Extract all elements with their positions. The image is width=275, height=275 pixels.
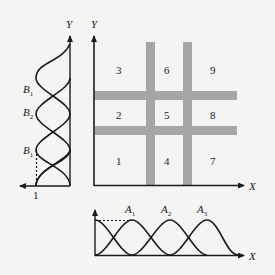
vertical-bar-2 xyxy=(183,42,192,185)
cell-7: 7 xyxy=(210,155,216,167)
label-a2: A2 xyxy=(160,203,172,218)
left-y-label: Y xyxy=(66,18,74,30)
curve-a1 xyxy=(95,220,170,255)
curve-b2 xyxy=(36,78,70,150)
vertical-bar-1 xyxy=(146,42,155,185)
left-amplitude-label: 1 xyxy=(33,189,39,201)
curve-b-top xyxy=(36,44,70,114)
cell-8: 8 xyxy=(210,109,216,121)
cell-2: 2 xyxy=(116,109,122,121)
curve-b1-bottom xyxy=(36,150,70,186)
cell-1: 1 xyxy=(116,155,122,167)
curve-a3 xyxy=(170,220,238,255)
fuzzy-partition-diagram: Y X 3 6 9 2 5 8 1 4 7 Y 1 B1 B2 B1 xyxy=(0,0,275,275)
main-y-label: Y xyxy=(91,18,99,30)
label-b2: B2 xyxy=(23,106,34,121)
bottom-x-label: X xyxy=(248,250,257,262)
cell-9: 9 xyxy=(210,64,216,76)
cell-4: 4 xyxy=(164,155,170,167)
curve-a2 xyxy=(132,220,207,255)
label-a3: A3 xyxy=(196,203,208,218)
main-x-label: X xyxy=(248,180,257,192)
label-b1-top: B1 xyxy=(23,83,34,98)
cell-5: 5 xyxy=(164,109,170,121)
cell-6: 6 xyxy=(164,64,170,76)
label-b1-bottom: B1 xyxy=(23,144,34,159)
cell-3: 3 xyxy=(116,64,122,76)
horizontal-bar-1 xyxy=(95,91,237,100)
cell-labels: 3 6 9 2 5 8 1 4 7 xyxy=(116,64,216,167)
horizontal-bar-2 xyxy=(95,126,237,135)
left-membership-plot: Y 1 B1 B2 B1 xyxy=(20,18,74,201)
label-a1: A1 xyxy=(124,203,136,218)
curve-b-lower-left xyxy=(36,150,70,186)
bottom-membership-plot: X A1 A2 A3 xyxy=(95,203,257,262)
